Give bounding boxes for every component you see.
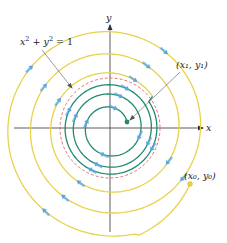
direction-arrow-icon xyxy=(86,166,97,176)
direction-arrow-icon xyxy=(71,112,80,123)
circle-equation-label: x2 + y2 = 1 xyxy=(20,35,73,47)
end-point-marker xyxy=(125,120,130,125)
start-point-marker xyxy=(188,182,193,187)
end-point-label: (x₁, y₁) xyxy=(176,59,208,70)
y-axis-label: y xyxy=(105,12,112,23)
direction-arrow-icon xyxy=(135,130,144,141)
trajectory-spiral xyxy=(8,32,201,236)
direction-arrow-icon xyxy=(75,178,86,188)
spiral-trajectory-diagram: x2 + y2 = 1 (x₁, y₁) (x₀, y₀) x y xyxy=(0,0,227,243)
direction-arrow-icon xyxy=(113,91,124,100)
direction-arrow-icon xyxy=(64,106,74,117)
x-axis-label: x xyxy=(206,122,212,133)
direction-arrow-icon xyxy=(144,136,153,147)
circle-leader-line xyxy=(42,50,72,88)
direction-arrow-icon xyxy=(128,74,139,84)
direction-arrow-icon xyxy=(53,96,63,107)
direction-arrow-icon xyxy=(119,83,130,92)
outer-trajectory-segment xyxy=(8,32,201,236)
inner-trajectory-segment xyxy=(65,85,157,174)
start-point-label: (x₀, y₀) xyxy=(184,170,216,181)
direction-arrow-icon xyxy=(92,160,103,169)
